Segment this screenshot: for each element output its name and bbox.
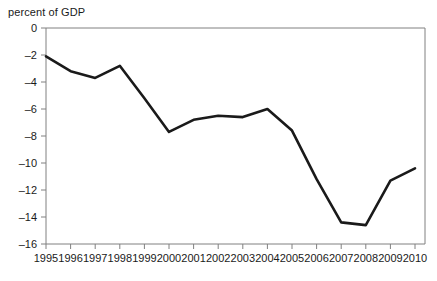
y-tick-label: –8 <box>11 131 37 142</box>
y-tick-label: 0 <box>11 23 37 34</box>
y-tick-label: –6 <box>11 104 37 115</box>
y-tick-label: –16 <box>11 239 37 250</box>
chart-plot-area <box>0 0 437 281</box>
x-tick-label: 2010 <box>398 253 432 264</box>
axis-lines <box>46 28 425 244</box>
y-axis-ticks <box>41 28 46 244</box>
y-tick-label: –14 <box>11 212 37 223</box>
y-tick-label: –10 <box>11 158 37 169</box>
y-tick-label: –4 <box>11 77 37 88</box>
y-tick-label: –12 <box>11 185 37 196</box>
data-series-line <box>46 56 415 225</box>
chart-figure: percent of GDP 0–2–4–6–8–10–12–14–16 199… <box>0 0 437 281</box>
x-axis-ticks <box>46 244 415 249</box>
y-tick-label: –2 <box>11 50 37 61</box>
series-line-percent-of-gdp <box>46 56 415 225</box>
